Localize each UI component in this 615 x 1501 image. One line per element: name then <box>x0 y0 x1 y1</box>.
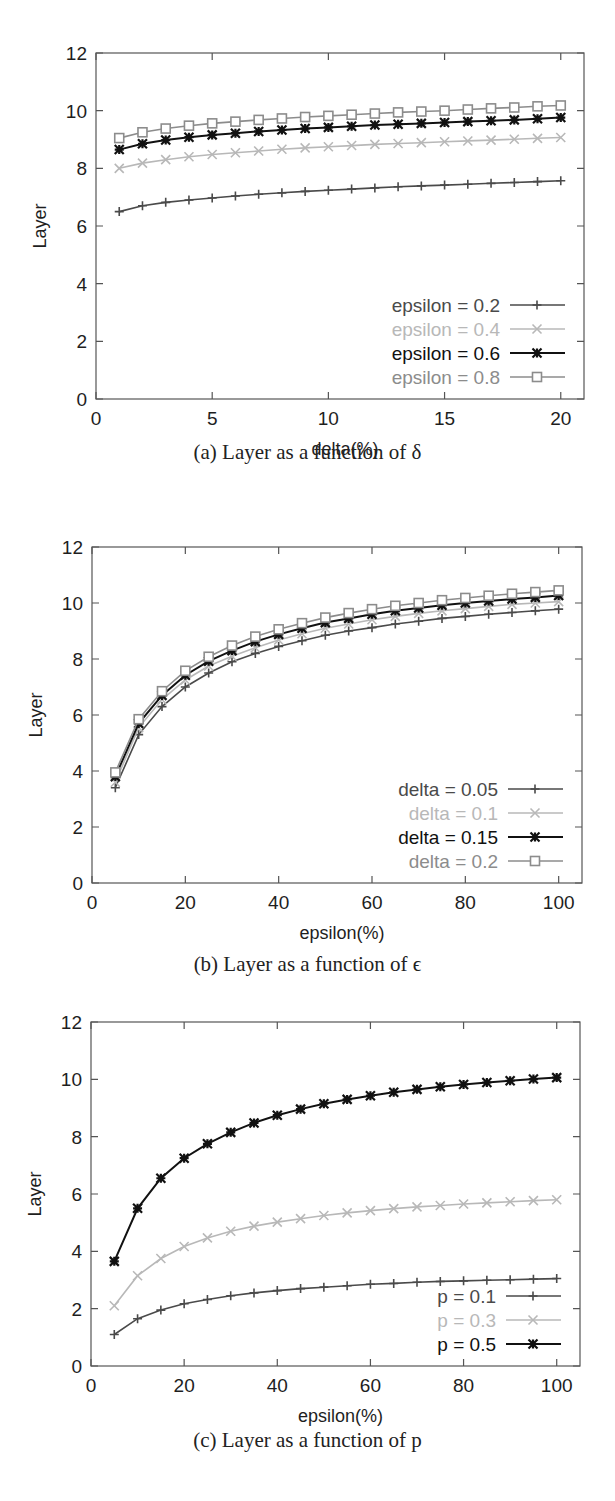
star-marker-icon <box>208 130 217 139</box>
plus-marker-icon <box>273 1286 282 1295</box>
legend: epsilon = 0.2epsilon = 0.4epsilon = 0.6e… <box>392 295 565 388</box>
square-marker-icon <box>484 591 493 600</box>
star-marker-icon <box>347 122 356 131</box>
square-marker-icon <box>301 113 310 122</box>
square-marker-icon <box>463 105 472 114</box>
plus-marker-icon <box>231 192 240 201</box>
star-marker-icon <box>115 145 124 154</box>
caption-c: (c) Layer as a function of p <box>0 1428 615 1453</box>
square-marker-icon <box>251 632 260 641</box>
plus-marker-icon <box>487 179 496 188</box>
legend: p = 0.1p = 0.3p = 0.5 <box>437 1286 561 1355</box>
legend-label: delta = 0.1 <box>409 803 498 824</box>
series-epsilon-0-2 <box>115 176 566 216</box>
y-tick-label: 12 <box>66 43 87 64</box>
star-marker-icon <box>273 1111 282 1120</box>
square-marker-icon <box>438 596 447 605</box>
square-marker-icon <box>184 121 193 130</box>
square-marker-icon <box>487 104 496 113</box>
star-marker-icon <box>277 125 286 134</box>
legend-label: p = 0.1 <box>437 1286 496 1307</box>
y-tick-label: 8 <box>76 158 87 179</box>
square-marker-icon <box>138 128 147 137</box>
y-tick-label: 12 <box>61 1012 82 1033</box>
plus-marker-icon <box>389 1279 398 1288</box>
square-marker-icon <box>274 625 283 634</box>
y-tick-label: 6 <box>72 705 83 726</box>
star-marker-icon <box>250 1118 259 1127</box>
plus-marker-icon <box>184 196 193 205</box>
x-tick-label: 10 <box>318 408 339 429</box>
legend-label: delta = 0.05 <box>398 779 498 800</box>
plus-marker-icon <box>459 1276 468 1285</box>
star-marker-icon <box>394 120 403 129</box>
square-marker-icon <box>111 768 120 777</box>
square-marker-icon <box>391 601 400 610</box>
plus-marker-icon <box>208 194 217 203</box>
square-marker-icon <box>134 715 143 724</box>
chart-panel-b: 024681012020406080100epsilon(%)Layerdelt… <box>26 537 582 943</box>
square-marker-icon <box>115 134 124 143</box>
star-marker-icon <box>184 133 193 142</box>
square-marker-icon <box>417 107 426 116</box>
y-tick-label: 2 <box>76 331 87 352</box>
x-tick-label: 100 <box>541 1375 573 1396</box>
plus-marker-icon <box>463 180 472 189</box>
y-tick-label: 8 <box>71 1127 82 1148</box>
cross-marker-icon <box>133 1271 142 1280</box>
square-marker-icon <box>321 613 330 622</box>
x-tick-label: 40 <box>267 1375 288 1396</box>
star-marker-icon <box>156 1174 165 1183</box>
plus-marker-icon <box>552 1274 561 1283</box>
y-tick-label: 8 <box>72 649 83 670</box>
star-marker-icon <box>319 1099 328 1108</box>
y-tick-label: 4 <box>71 1241 82 1262</box>
square-marker-icon <box>508 589 517 598</box>
star-marker-icon <box>533 349 542 358</box>
cross-marker-icon <box>203 1233 212 1242</box>
plus-marker-icon <box>529 1292 538 1301</box>
square-marker-icon <box>440 106 449 115</box>
y-tick-label: 0 <box>72 873 83 894</box>
plus-marker-icon <box>484 610 493 619</box>
legend-label: epsilon = 0.2 <box>392 295 500 316</box>
legend-label: epsilon = 0.6 <box>392 343 500 364</box>
legend-label: epsilon = 0.8 <box>392 367 500 388</box>
x-tick-label: 100 <box>543 892 575 913</box>
plus-marker-icon <box>368 623 377 632</box>
star-marker-icon <box>436 1082 445 1091</box>
star-marker-icon <box>324 123 333 132</box>
star-marker-icon <box>531 833 540 842</box>
plus-marker-icon <box>438 614 447 623</box>
y-tick-label: 12 <box>62 537 83 558</box>
cross-marker-icon <box>180 1242 189 1251</box>
plus-marker-icon <box>533 177 542 186</box>
y-axis-title: Layer <box>25 1171 45 1216</box>
star-marker-icon <box>180 1154 189 1163</box>
star-marker-icon <box>510 115 519 124</box>
y-tick-label: 2 <box>72 817 83 838</box>
y-tick-label: 6 <box>71 1184 82 1205</box>
square-marker-icon <box>510 103 519 112</box>
chart-panel-c: 024681012020406080100epsilon(%)Layerp = … <box>25 1012 580 1426</box>
star-marker-icon <box>482 1078 491 1087</box>
plus-marker-icon <box>413 1278 422 1287</box>
y-axis-title: Layer <box>26 692 46 737</box>
legend-label: p = 0.5 <box>437 1334 496 1355</box>
plus-marker-icon <box>556 176 565 185</box>
x-tick-label: 15 <box>434 408 455 429</box>
x-axis-title: epsilon(%) <box>299 923 384 943</box>
x-tick-label: 60 <box>361 892 382 913</box>
x-tick-label: 0 <box>91 408 102 429</box>
square-marker-icon <box>370 109 379 118</box>
square-marker-icon <box>554 586 563 595</box>
x-tick-label: 20 <box>550 408 571 429</box>
plus-marker-icon <box>110 1330 119 1339</box>
plus-marker-icon <box>391 620 400 629</box>
legend-label: delta = 0.15 <box>398 827 498 848</box>
star-marker-icon <box>533 114 542 123</box>
plus-marker-icon <box>133 1314 142 1323</box>
square-marker-icon <box>161 124 170 133</box>
y-tick-label: 10 <box>62 593 83 614</box>
plus-marker-icon <box>531 785 540 794</box>
